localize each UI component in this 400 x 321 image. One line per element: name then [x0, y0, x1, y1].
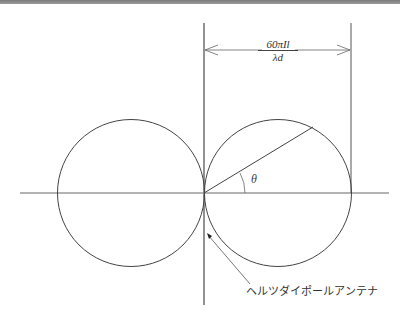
radiation-pattern-diagram — [0, 0, 400, 321]
antenna-leader-line — [208, 235, 250, 284]
radius-line — [204, 127, 313, 193]
leader-arrowhead — [207, 233, 212, 239]
antenna-label: ヘルツダイポールアンテナ — [246, 282, 378, 298]
angle-label: θ — [251, 172, 257, 187]
dimension-denominator: λd — [258, 51, 298, 63]
angle-arc — [240, 173, 245, 193]
dimension-numerator: 60πIl — [258, 38, 298, 51]
dimension-label: 60πIl λd — [258, 38, 298, 63]
